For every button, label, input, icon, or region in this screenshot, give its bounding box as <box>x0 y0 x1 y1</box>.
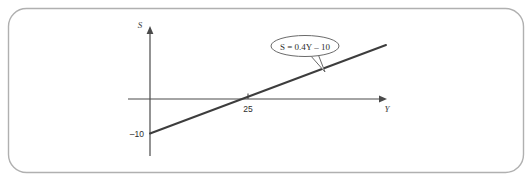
x-intercept-label: 25 <box>243 104 253 114</box>
y-intercept-label: –10 <box>130 129 144 139</box>
vertical-axis-label: S <box>138 20 143 30</box>
equation-callout-label: S = 0.4Y – 10 <box>280 42 330 52</box>
savings-function-diagram: S Y –10 25 S = 0.4Y – 10 <box>0 0 532 181</box>
figure-container: S Y –10 25 S = 0.4Y – 10 <box>0 0 532 181</box>
